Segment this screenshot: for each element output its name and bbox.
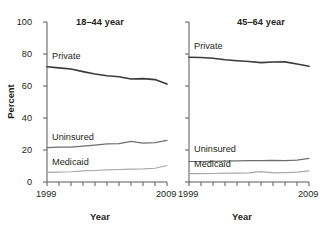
x-tick-marks-left [47,182,167,186]
y-tick-marks-right [185,22,189,182]
series-line-private-left [47,67,167,84]
series-label-uninsured-left: Uninsured [52,133,94,142]
series-label-private-left: Private [52,52,81,61]
x-axis-title-left: Year [90,211,110,222]
figure-container: 18–44 year Percent 100 80 60 40 20 0 [0,0,334,231]
chart-panel-18-44: 18–44 year Percent 100 80 60 40 20 0 [0,0,172,231]
x-axis-title-right: Year [232,211,252,222]
x-tick-label-start-right: 1999 [178,190,198,199]
x-tick-label-start-left: 1999 [36,190,56,199]
chart-panel-45-64: 45–64 year [172,0,334,231]
series-label-medicaid-right: Medicaid [194,160,231,169]
data-lines-right [189,57,309,173]
series-line-medicaid-right [189,171,309,174]
y-tick-marks-left [43,22,47,182]
x-tick-label-end-right: 2009 [298,190,318,199]
x-tick-marks-right [189,182,309,186]
series-line-private-right [189,57,309,66]
series-label-uninsured-right: Uninsured [194,145,236,154]
plot-area-left [0,0,172,231]
series-label-private-right: Private [194,42,223,51]
series-label-medicaid-left: Medicaid [52,158,89,167]
